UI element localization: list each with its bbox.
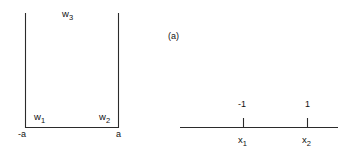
region-label-w3: w3 — [62, 9, 73, 19]
region-label-w1: w1 — [34, 112, 45, 122]
axis-label-minus-a: -a — [18, 130, 26, 139]
number-line-panel: (a) -1 1 x1 x2 — [160, 0, 358, 158]
tick-value-minus-1: -1 — [238, 100, 246, 109]
point-label-x2: x2 — [302, 135, 311, 145]
number-line-strokes — [160, 0, 358, 158]
point-label-x1: x1 — [238, 135, 247, 145]
region-label-w2: w2 — [99, 112, 110, 122]
axis-label-a: a — [116, 130, 121, 139]
tick-value-1: 1 — [305, 100, 310, 109]
figure-canvas: w3 w1 w2 -a a (a) -1 1 — [0, 0, 358, 158]
square-well-panel: w3 w1 w2 -a a — [0, 0, 160, 158]
